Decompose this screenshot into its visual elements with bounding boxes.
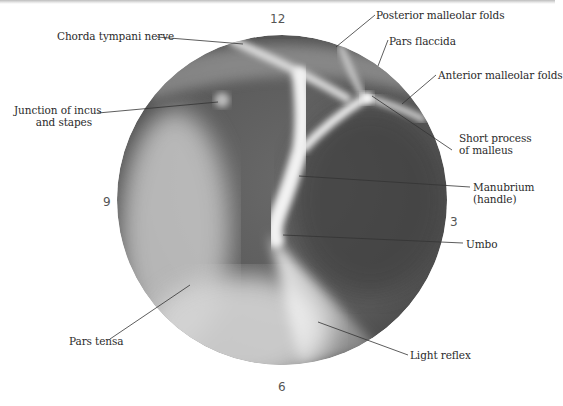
- label-light-reflex: Light reflex: [410, 349, 471, 361]
- label-junction-incus-stapes: Junction of incus and stapes: [14, 104, 92, 128]
- clock-6: 6: [278, 380, 286, 394]
- label-posterior-malleolar-folds: Posterior malleolar folds: [376, 9, 504, 21]
- clock-3: 3: [450, 215, 458, 229]
- clock-9: 9: [103, 195, 111, 209]
- membrane-disc: [117, 35, 450, 385]
- label-short-process-malleus: Short process of malleus: [459, 132, 532, 156]
- label-pars-flaccida: Pars flaccida: [389, 35, 456, 47]
- label-umbo: Umbo: [466, 238, 497, 250]
- label-manubrium: Manubrium (handle): [473, 181, 534, 205]
- label-pars-tensa: Pars tensa: [69, 335, 123, 347]
- clock-12: 12: [270, 12, 285, 26]
- label-anterior-malleolar-folds: Anterior malleolar folds: [438, 69, 563, 81]
- label-chorda-tympani-nerve: Chorda tympani nerve: [57, 30, 174, 42]
